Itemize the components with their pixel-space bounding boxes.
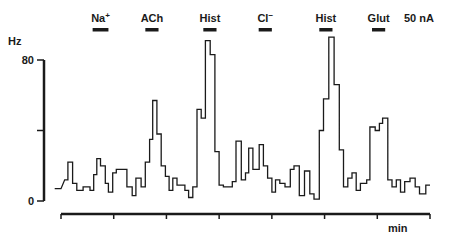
application-bar	[203, 28, 216, 32]
drug-label: Cl−	[257, 11, 273, 24]
drug-label: Hist	[200, 12, 221, 24]
application-bar	[259, 28, 272, 32]
drug-marker: ACh	[141, 12, 164, 32]
application-bar	[145, 28, 158, 32]
drug-marker: Hist	[200, 12, 221, 32]
application-bar	[93, 28, 109, 32]
application-bar	[372, 28, 385, 32]
current-scale-label: 50 nA	[404, 12, 434, 24]
x-axis	[61, 214, 430, 219]
drug-label: Hist	[315, 12, 336, 24]
y-axis-label: Hz	[8, 35, 22, 47]
drug-label: Na+	[91, 11, 110, 24]
firing-rate-chart: Na+AChHistCl−HistGlut 50 nA Hz 080 min	[0, 0, 457, 241]
y-tick-label: 80	[22, 54, 34, 66]
y-tick-label: 0	[28, 195, 34, 207]
drug-label: Glut	[368, 12, 390, 24]
y-axis: 080	[22, 54, 44, 207]
firing-rate-trace	[55, 37, 430, 199]
drug-application-markers: Na+AChHistCl−HistGlut	[91, 11, 390, 32]
drug-marker: Cl−	[257, 11, 273, 32]
drug-marker: Na+	[91, 11, 110, 32]
drug-label: ACh	[141, 12, 164, 24]
drug-marker: Hist	[315, 12, 336, 32]
drug-marker: Glut	[368, 12, 390, 32]
application-bar	[319, 28, 332, 32]
x-axis-label: min	[388, 222, 408, 234]
